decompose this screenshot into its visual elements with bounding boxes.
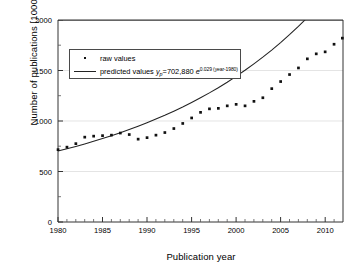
y-axis-title-text: Number of publications [1000]	[28, 0, 39, 126]
x-tick-label-1995: 1995	[182, 226, 202, 235]
legend-entry-predicted-values: predicted values yp=702,880 e0.029 (year…	[70, 65, 238, 77]
x-tick-label-1980: 1980	[48, 226, 68, 235]
y-major-ticks	[58, 20, 63, 222]
x-tick-label-1985: 1985	[93, 226, 113, 235]
y-tick-label-500: 500	[26, 168, 52, 177]
y-axis-title: Number of publications [1000]	[23, 0, 41, 156]
legend-entry-raw-values: raw values	[70, 52, 135, 64]
legend-label-predicted-values: predicted values yp=702,880 e0.029 (year…	[100, 66, 238, 77]
x-axis-title: Publication year	[58, 246, 344, 264]
legend-equation-equals: =702,880	[163, 67, 196, 76]
legend-equation-exponent: 0.029 (year-1980)	[200, 66, 238, 72]
x-tick-label-2005: 2005	[271, 226, 291, 235]
legend-label-raw-values: raw values	[100, 54, 135, 63]
x-tick-label-2000: 2000	[226, 226, 246, 235]
legend-line-icon	[70, 71, 100, 72]
x-tick-label-2010: 2010	[315, 226, 335, 235]
x-axis-title-text: Publication year	[166, 251, 235, 262]
legend: raw values predicted values yp=702,880 e…	[69, 49, 241, 79]
x-tick-label-1990: 1990	[137, 226, 157, 235]
publication-growth-chart: 2000 1500 1000 500 0 1980 1985 1990 1995…	[0, 0, 363, 271]
x-major-ticks	[58, 217, 325, 222]
gridlines	[58, 71, 343, 172]
legend-marker-square-icon	[70, 57, 100, 60]
legend-predicted-prefix: predicted values	[100, 67, 156, 76]
